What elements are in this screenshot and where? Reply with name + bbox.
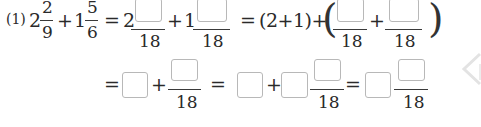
row2-fraction-bar1: [168, 89, 201, 90]
answer-box-final-whole[interactable]: [365, 72, 391, 98]
plus-operator: +: [369, 11, 385, 30]
equals-sign: =: [345, 75, 361, 94]
row2-denominator3: 18: [403, 94, 425, 111]
answer-box-whole-sum[interactable]: [122, 72, 148, 98]
step1-whole2: 1: [184, 11, 196, 30]
answer-box-final-numerator[interactable]: [398, 59, 425, 81]
answer-box-step2-numerator2[interactable]: [389, 0, 419, 22]
answer-box-step1-numerator2[interactable]: [197, 0, 227, 22]
plus-operator: +: [57, 11, 73, 30]
row2-fraction-bar2: [310, 89, 344, 90]
plus-operator: +: [266, 75, 282, 94]
step1-denominator1: 18: [139, 33, 161, 50]
grouped-wholes: (2+1)+: [259, 11, 327, 30]
mixed2-numerator: 5: [87, 0, 98, 16]
row2-fraction-bar3: [394, 89, 428, 90]
row2-denominator2: 18: [318, 94, 340, 111]
answer-box-step2-numerator1[interactable]: [337, 0, 364, 22]
equals-sign: =: [104, 75, 120, 94]
answer-box-carry-whole[interactable]: [281, 72, 308, 98]
mixed2-denominator: 6: [87, 24, 98, 41]
step1-whole1: 2: [123, 11, 135, 30]
mixed1-numerator: 2: [42, 0, 53, 16]
problem-number-label: (1): [6, 12, 26, 26]
equals-sign: =: [210, 75, 226, 94]
answer-box-carry-numerator[interactable]: [314, 59, 341, 81]
step2-denominator1: 18: [341, 33, 363, 50]
chevron-left-icon[interactable]: [458, 52, 481, 86]
equals-sign: =: [240, 11, 256, 30]
answer-box-whole-sum2[interactable]: [237, 72, 263, 98]
plus-operator: +: [167, 11, 183, 30]
step1-denominator2: 18: [202, 33, 224, 50]
row2-denominator1: 18: [176, 94, 198, 111]
plus-operator: +: [151, 75, 167, 94]
paren-open: (: [322, 0, 338, 38]
equals-sign: =: [104, 11, 120, 30]
mixed1-denominator: 9: [42, 24, 53, 41]
answer-box-step1-numerator1[interactable]: [135, 0, 162, 22]
paren-close: ): [428, 0, 444, 38]
answer-box-fraction-sum-numerator[interactable]: [171, 59, 198, 81]
step2-denominator2: 18: [394, 33, 416, 50]
